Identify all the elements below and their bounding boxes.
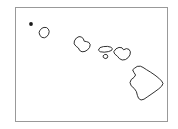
map-canvas xyxy=(0,0,178,129)
hawaii-outline-map xyxy=(0,0,178,129)
island-group xyxy=(29,22,163,100)
island-lanai xyxy=(103,54,107,58)
island-hawaii-big-island xyxy=(130,66,163,100)
island-niihau xyxy=(29,22,33,26)
island-molokai xyxy=(99,46,113,52)
island-kauai xyxy=(39,27,49,37)
island-oahu xyxy=(74,37,90,52)
island-maui xyxy=(114,47,130,60)
